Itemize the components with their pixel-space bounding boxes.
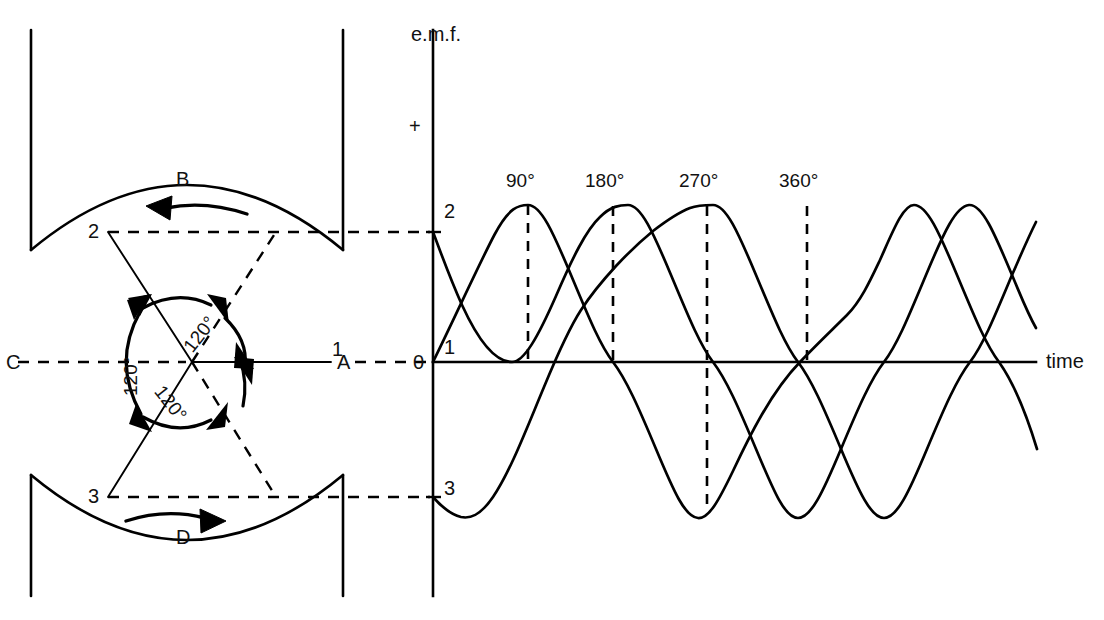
time-axis-label: time [1046,351,1084,371]
phase-start-1-label: 1 [444,337,455,357]
phase-start-3-label: 3 [444,478,455,498]
origin-zero-label: 0 [413,352,424,372]
angle-label-left: 120° [121,357,140,396]
rotor-coil-spokes [108,232,331,497]
dash-bisector-lower [192,362,276,497]
rotor-terminal-2-label: 2 [88,221,99,241]
phase-start-2-label: 2 [444,201,455,221]
degree-marker-lines [528,205,807,512]
figure-vector-layer [0,0,1104,620]
axis-label-a: A [337,352,350,372]
polarity-plus-label: + [409,116,421,136]
degree-marker-360-label: 360° [779,171,818,190]
rotor-terminal-3-label: 3 [88,486,99,506]
degree-marker-180-label: 180° [585,171,624,190]
construction-dashed-lines [18,232,430,497]
graph-axes [433,30,1036,596]
pole-label-d: D [176,527,190,547]
degree-marker-90-label: 90° [506,171,535,190]
three-phase-emf-figure: 2 3 1 A C B D 120° 120° 120° e.m.f. + 0 … [0,0,1104,620]
pole-label-b: B [176,169,189,189]
axis-label-c: C [6,352,20,372]
pole-face-top [31,185,343,250]
rotation-arrow-b [146,196,247,220]
field-pole-top [31,30,343,250]
emf-axis-label: e.m.f. [411,24,461,44]
degree-marker-270-label: 270° [679,171,718,190]
